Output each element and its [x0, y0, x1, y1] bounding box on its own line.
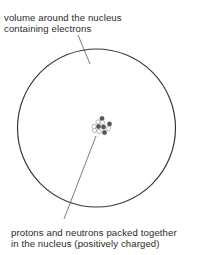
proton	[102, 130, 106, 134]
neutron	[97, 129, 101, 133]
proton	[100, 116, 104, 120]
proton	[107, 122, 111, 126]
neutron	[106, 126, 110, 130]
neutron	[100, 120, 104, 124]
nucleus-label: protons and neutrons packed together in …	[11, 227, 177, 249]
neutron	[92, 124, 96, 128]
nucleus-label-line1: protons and neutrons packed together	[11, 227, 177, 238]
nucleus	[92, 116, 112, 134]
proton	[101, 125, 105, 129]
atom-diagram	[0, 0, 201, 255]
nucleus-label-line2: in the nucleus (positively charged)	[11, 238, 177, 249]
neutron	[96, 120, 100, 124]
electron-cloud-boundary	[18, 49, 176, 207]
neutron	[92, 128, 96, 132]
proton	[96, 124, 100, 128]
